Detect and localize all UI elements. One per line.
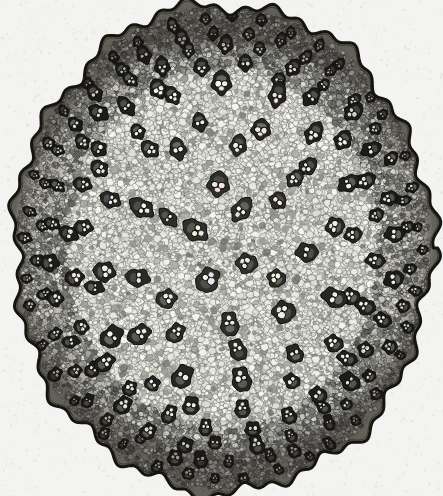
figure-root (0, 0, 443, 496)
stem-cross-section-illustration (0, 0, 443, 496)
